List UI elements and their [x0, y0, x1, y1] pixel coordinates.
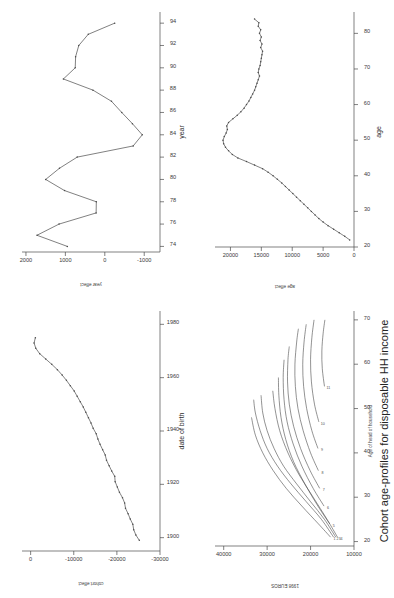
svg-text:0: 0 — [352, 252, 355, 258]
svg-text:5: 5 — [333, 524, 335, 528]
svg-text:0: 0 — [103, 257, 106, 263]
svg-text:88: 88 — [170, 85, 176, 91]
svg-text:84: 84 — [170, 130, 176, 136]
age-effect-axes — [215, 12, 354, 247]
svg-text:94: 94 — [170, 18, 176, 24]
svg-text:30: 30 — [364, 206, 370, 212]
year-effect-points — [36, 22, 143, 247]
svg-text:10000: 10000 — [284, 252, 300, 258]
cohort-effect-xticks: 19001920194019601980 — [160, 319, 179, 538]
svg-text:30: 30 — [364, 492, 370, 498]
svg-text:10: 10 — [321, 422, 325, 426]
svg-text:9: 9 — [321, 448, 323, 452]
cohort-age-profiles-svg: 203040506070 10000200003000040000 123456… — [197, 299, 394, 598]
svg-text:80: 80 — [364, 28, 370, 34]
cohort-profiles-curve-labels: 1234567891011 — [321, 386, 343, 541]
svg-text:74: 74 — [170, 241, 176, 247]
age-effect-points — [222, 18, 350, 240]
cohort-effect-svg: 19001920194019601980 0-10000-20000-30000… — [0, 299, 197, 598]
cohort-age-profiles-panel: 203040506070 10000200003000040000 123456… — [197, 299, 394, 598]
svg-text:5000: 5000 — [317, 252, 329, 258]
svg-text:1000: 1000 — [59, 257, 71, 263]
cohort-profiles-title: Cohort age-profiles for disposable HH in… — [378, 320, 390, 543]
svg-text:1920: 1920 — [167, 479, 179, 485]
cohort-effect-points — [33, 337, 140, 541]
svg-text:78: 78 — [170, 197, 176, 203]
svg-text:40000: 40000 — [216, 551, 232, 557]
svg-text:90: 90 — [170, 63, 176, 69]
svg-text:60: 60 — [364, 359, 370, 365]
cohort-profiles-ylabel: 1998 EUROS — [271, 583, 299, 588]
svg-text:4: 4 — [340, 537, 342, 541]
cohort-effect-panel: 19001920194019601980 0-10000-20000-30000… — [0, 299, 197, 598]
svg-text:92: 92 — [170, 40, 176, 46]
svg-text:1900: 1900 — [167, 533, 179, 539]
age-effect-yticks: 05000100001500020000 — [223, 247, 356, 258]
cohort-effect-ylabel: cohort effect — [78, 581, 104, 586]
cohort-profiles-axes — [215, 311, 354, 546]
year-effect-line — [37, 23, 142, 246]
svg-text:30000: 30000 — [259, 551, 275, 557]
cohort-profiles-subtitle: Age of head of household — [368, 404, 373, 457]
svg-text:-20000: -20000 — [108, 556, 125, 562]
panel-grid: 19001920194019601980 0-10000-20000-30000… — [0, 0, 394, 598]
cohort-effect-axes — [22, 311, 160, 551]
cohort-profiles-yticks: 10000200003000040000 — [216, 546, 362, 557]
svg-text:-10000: -10000 — [65, 556, 82, 562]
svg-text:20: 20 — [364, 242, 370, 248]
age-effect-svg: 20304050607080 05000100001500020000 age … — [197, 0, 394, 299]
svg-text:20000: 20000 — [303, 551, 319, 557]
svg-text:11: 11 — [327, 386, 331, 390]
svg-text:60: 60 — [364, 100, 370, 106]
svg-text:80: 80 — [170, 174, 176, 180]
svg-text:7: 7 — [323, 488, 325, 492]
svg-text:6: 6 — [327, 506, 329, 510]
cohort-profiles-curves — [251, 320, 337, 537]
svg-text:1: 1 — [334, 537, 336, 541]
year-effect-svg: 7476788082848688909294 200010000-1000 ye… — [0, 0, 197, 299]
svg-text:76: 76 — [170, 219, 176, 225]
svg-text:70: 70 — [364, 315, 370, 321]
cohort-effect-xlabel: date of birth — [178, 412, 185, 449]
svg-text:-30000: -30000 — [151, 556, 168, 562]
age-effect-xlabel: age — [375, 126, 383, 138]
svg-text:20000: 20000 — [223, 252, 239, 258]
svg-text:8: 8 — [321, 471, 323, 475]
svg-text:10000: 10000 — [346, 551, 362, 557]
age-effect-line — [223, 19, 350, 240]
year-effect-panel: 7476788082848688909294 200010000-1000 ye… — [0, 0, 197, 299]
age-effect-xticks: 20304050607080 — [354, 28, 370, 248]
svg-text:82: 82 — [170, 152, 176, 158]
year-effect-yticks: 200010000-1000 — [20, 252, 152, 263]
svg-text:1960: 1960 — [167, 373, 179, 379]
year-effect-ylabel: year effect — [80, 282, 102, 287]
svg-text:50: 50 — [364, 135, 370, 141]
svg-text:20: 20 — [364, 537, 370, 543]
year-effect-axes — [22, 12, 160, 252]
age-effect-panel: 20304050607080 05000100001500020000 age … — [197, 0, 394, 299]
svg-text:1980: 1980 — [167, 319, 179, 325]
cohort-effect-line — [34, 338, 139, 541]
cohort-effect-yticks: 0-10000-20000-30000 — [29, 551, 169, 562]
svg-text:70: 70 — [364, 64, 370, 70]
svg-text:-1000: -1000 — [137, 257, 151, 263]
svg-text:86: 86 — [170, 107, 176, 113]
year-effect-xlabel: year — [178, 125, 186, 139]
year-effect-xticks: 7476788082848688909294 — [160, 18, 176, 247]
figure-sheet: 19001920194019601980 0-10000-20000-30000… — [0, 0, 394, 598]
svg-text:40: 40 — [364, 171, 370, 177]
svg-text:0: 0 — [29, 556, 32, 562]
svg-text:15000: 15000 — [254, 252, 270, 258]
svg-text:2000: 2000 — [20, 257, 32, 263]
age-effect-ylabel: age effect — [274, 284, 295, 289]
